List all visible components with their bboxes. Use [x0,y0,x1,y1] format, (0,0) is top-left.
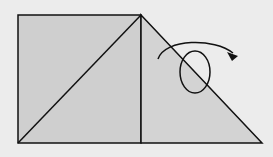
origami-diagram [0,0,273,157]
diagram-svg [0,0,273,157]
triangle-flap [141,15,262,143]
